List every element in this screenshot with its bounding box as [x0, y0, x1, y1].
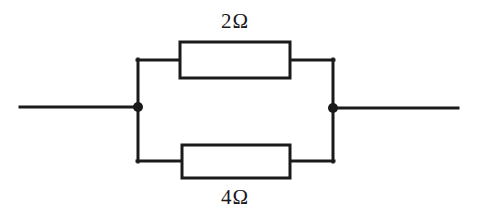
junction-node-left [133, 102, 143, 112]
junction-node-right [328, 103, 338, 113]
resistor-2-ohm-body [180, 42, 290, 78]
resistor-2-ohm-label: 2Ω [180, 11, 290, 32]
resistor-4-ohm-body [182, 145, 290, 178]
circuit-diagram-canvas: 2Ω 4Ω [0, 0, 485, 219]
resistor-4-ohm-label: 4Ω [180, 187, 290, 208]
